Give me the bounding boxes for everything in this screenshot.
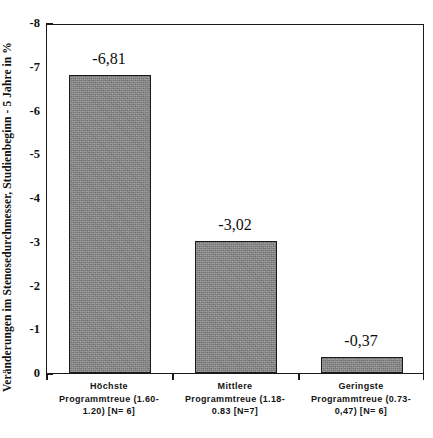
y-axis-tick-label: -2 [12,279,40,294]
bar-value-label: -3,02 [175,216,295,234]
plot-area [46,24,424,374]
bar-chart-figure: Veränderungen im Stenosedurchmesser, Stu… [0,0,433,438]
x-axis-category-line: 1.20) [N= 6] [40,405,178,418]
bar [69,75,151,373]
bar-value-label: -6,81 [49,50,169,68]
x-axis-category-line: Höchste [40,380,178,393]
x-axis-tick-mark [423,373,425,380]
x-axis-category-line: Programmtreue (1.60- [40,393,178,406]
y-axis-tick-label: -6 [12,104,40,119]
x-axis-category-line: Programmtreue (1.18- [166,393,304,406]
y-axis-tick-label: -5 [12,147,40,162]
y-axis-tick-label: -8 [12,16,40,31]
x-axis-category-line: Programmtreue (0.73- [292,393,430,406]
x-axis-tick-mark [298,373,300,380]
x-axis-category-line: Mittlere [166,380,304,393]
x-axis-category-label: HöchsteProgrammtreue (1.60-1.20) [N= 6] [40,380,178,418]
x-axis-category-label: GeringsteProgrammtreue (0.73-0,47) [N= 6… [292,380,430,418]
bar [321,357,403,373]
x-axis-tick-mark [172,373,174,380]
y-axis-tick-label: 0 [12,366,40,381]
bar [195,241,277,373]
x-axis-category-line: 0,47) [N= 6] [292,405,430,418]
x-axis-tick-mark [46,373,48,380]
x-axis-category-label: MittlereProgrammtreue (1.18-0.83 [N=7] [166,380,304,418]
y-axis-tick-label: -3 [12,235,40,250]
bar-value-label: -0,37 [301,332,421,350]
y-axis-title: Veränderungen im Stenosedurchmesser, Stu… [0,42,14,392]
y-axis-tick-label: -1 [12,322,40,337]
x-axis-category-line: 0.83 [N=7] [166,405,304,418]
y-axis-tick-label: -7 [12,60,40,75]
y-axis-tick-label: -4 [12,191,40,206]
x-axis-category-line: Geringste [292,380,430,393]
